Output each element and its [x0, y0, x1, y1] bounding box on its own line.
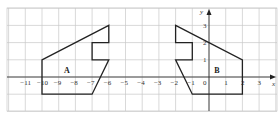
- shape-label-a: A: [64, 66, 70, 75]
- x-tick-label: −11: [20, 79, 31, 87]
- shape-label-b: B: [214, 66, 220, 75]
- x-axis-arrow-icon: [270, 75, 276, 80]
- coordinate-diagram: xy−11−10−9−8−7−6−5−4−3−2−11230123AB: [0, 0, 280, 118]
- x-tick-label: −8: [70, 79, 78, 87]
- x-axis-label: x: [271, 80, 276, 88]
- x-tick-label: −6: [104, 79, 112, 87]
- y-tick-label: 3: [203, 22, 207, 30]
- grid-svg: xy−11−10−9−8−7−6−5−4−3−2−11230123AB: [0, 0, 280, 118]
- x-tick-label: 3: [258, 79, 262, 87]
- x-tick-label: −2: [171, 79, 179, 87]
- y-tick-label: 1: [203, 56, 207, 64]
- origin-label: 0: [203, 79, 207, 87]
- x-tick-label: −7: [87, 79, 95, 87]
- x-tick-label: −10: [37, 79, 48, 87]
- y-axis-label: y: [199, 8, 204, 16]
- x-tick-label: 1: [224, 79, 228, 87]
- x-tick-label: −5: [121, 79, 129, 87]
- x-tick-label: −4: [137, 79, 145, 87]
- x-tick-label: −3: [154, 79, 162, 87]
- y-axis-arrow-icon: [207, 9, 212, 15]
- x-tick-label: −9: [54, 79, 62, 87]
